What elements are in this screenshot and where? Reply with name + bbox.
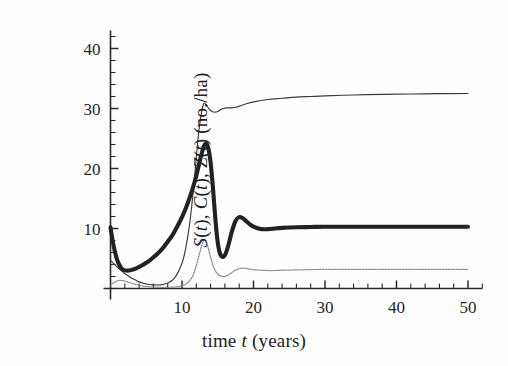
x-tick-label-10: 10	[174, 298, 191, 317]
y-label-arg2: t	[190, 184, 211, 189]
y-axis-label-wrapper: S(t), C(t), Z(t) (no./ha)	[190, 0, 220, 320]
y-label-arg1: t	[190, 226, 211, 231]
x-tick-label-20: 20	[245, 298, 262, 317]
x-axis-label: time t (years)	[0, 330, 508, 352]
y-tick-label-30: 30	[84, 100, 101, 119]
x-label-post: (years)	[247, 330, 306, 351]
y-label-c-var: C	[190, 196, 211, 209]
y-label-paren3: (	[190, 190, 211, 197]
x-tick-label-30: 30	[317, 298, 334, 317]
y-axis-label: S(t), C(t), Z(t) (no./ha)	[190, 0, 212, 320]
y-label-arg3: t	[190, 145, 211, 150]
chart-figure: 102030405010203040 S(t), C(t), Z(t) (no.…	[0, 0, 508, 366]
series-line-s	[111, 94, 469, 286]
y-label-z-var: Z	[190, 157, 211, 168]
y-tick-label-10: 10	[84, 220, 101, 239]
x-tick-label-40: 40	[388, 298, 405, 317]
ticks-group	[111, 37, 483, 289]
tick-labels-group: 102030405010203040	[84, 40, 477, 317]
x-tick-label-50: 50	[460, 298, 477, 317]
axes-group	[104, 31, 483, 300]
y-tick-label-20: 20	[84, 160, 101, 179]
y-label-paren4: ),	[190, 168, 211, 184]
data-curves-group	[111, 94, 469, 288]
series-line-c	[111, 144, 469, 271]
y-label-paren2: ),	[190, 209, 211, 225]
y-label-units: (no./ha)	[190, 73, 211, 134]
chart-plot-area: 102030405010203040	[0, 0, 508, 366]
x-label-pre: time	[202, 330, 242, 351]
y-label-paren6: )	[190, 134, 211, 145]
y-label-paren5: (	[190, 151, 211, 158]
y-label-s-var: S	[190, 238, 211, 248]
y-label-paren1: (	[190, 231, 211, 238]
y-tick-label-40: 40	[84, 40, 101, 59]
